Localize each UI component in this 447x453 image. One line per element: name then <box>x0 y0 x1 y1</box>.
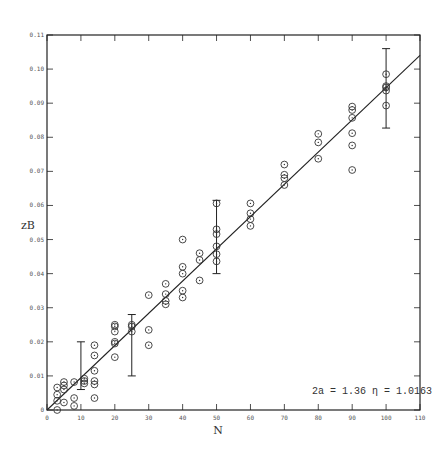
x-axis-title: N <box>213 424 223 437</box>
plot-frame <box>47 35 420 410</box>
y-axis-title: zB <box>21 219 35 232</box>
data-point-center <box>165 304 166 305</box>
data-point-center <box>131 326 132 327</box>
y-tick-label: 0.03 <box>30 304 45 311</box>
data-point-center <box>385 90 386 91</box>
data-point-center <box>250 203 251 204</box>
data-point-center <box>148 294 149 295</box>
data-point-center <box>318 133 319 134</box>
data-point-center <box>351 109 352 110</box>
y-tick-label: 0 <box>40 406 44 413</box>
x-tick-label: 90 <box>349 414 357 421</box>
y-tick-label: 0.05 <box>30 236 45 243</box>
data-point-center <box>114 326 115 327</box>
plot-border <box>47 35 420 410</box>
data-point-center <box>385 74 386 75</box>
y-tick-label: 0.10 <box>30 65 45 72</box>
data-point-center <box>56 409 57 410</box>
fit-line <box>47 55 420 410</box>
data-point-center <box>94 345 95 346</box>
data-point-center <box>114 324 115 325</box>
data-point-center <box>216 261 217 262</box>
y-tick-label: 0.08 <box>30 133 45 140</box>
data-point-center <box>94 370 95 371</box>
scatter-chart: 0102030405060708090100110 00.010.020.030… <box>0 0 447 453</box>
x-tick-label: 50 <box>213 414 221 421</box>
data-point-center <box>199 252 200 253</box>
data-point-center <box>148 329 149 330</box>
regression-line <box>47 55 420 410</box>
data-point-center <box>318 158 319 159</box>
data-point-center <box>216 229 217 230</box>
data-point-center <box>94 384 95 385</box>
x-tick-label: 80 <box>315 414 323 421</box>
y-tick-label: 0.07 <box>30 167 45 174</box>
x-tick-label: 0 <box>45 414 49 421</box>
data-point-center <box>216 203 217 204</box>
x-tick-label: 60 <box>247 414 255 421</box>
y-tick-label: 0.04 <box>30 270 45 277</box>
data-point-center <box>73 405 74 406</box>
data-point-center <box>182 239 183 240</box>
data-point-center <box>250 213 251 214</box>
data-points <box>54 71 390 414</box>
data-point-center <box>216 233 217 234</box>
data-point-center <box>84 380 85 381</box>
data-point-center <box>318 142 319 143</box>
data-point-center <box>56 387 57 388</box>
data-point-center <box>351 145 352 146</box>
x-tick-label: 70 <box>281 414 289 421</box>
data-point-center <box>131 331 132 332</box>
data-point-center <box>165 283 166 284</box>
data-point-center <box>284 177 285 178</box>
data-point-center <box>385 85 386 86</box>
data-point-center <box>114 331 115 332</box>
data-point-center <box>385 105 386 106</box>
x-tick-label: 30 <box>145 414 153 421</box>
data-point-center <box>73 381 74 382</box>
x-axis: 0102030405060708090100110 <box>45 35 426 421</box>
data-point-center <box>351 117 352 118</box>
x-tick-label: 110 <box>415 414 426 421</box>
data-point-center <box>284 184 285 185</box>
data-point-center <box>114 356 115 357</box>
data-point-center <box>56 394 57 395</box>
y-axis: 00.010.020.030.040.050.060.070.080.090.1… <box>30 31 420 413</box>
x-tick-label: 40 <box>179 414 187 421</box>
x-tick-label: 20 <box>111 414 119 421</box>
data-point-center <box>199 259 200 260</box>
data-point-center <box>351 169 352 170</box>
data-point-center <box>182 266 183 267</box>
data-point-center <box>216 246 217 247</box>
y-tick-label: 0.11 <box>30 31 45 38</box>
y-tick-label: 0.09 <box>30 99 45 106</box>
data-point-center <box>250 225 251 226</box>
data-point-center <box>94 355 95 356</box>
x-tick-label: 10 <box>77 414 85 421</box>
x-tick-label: 100 <box>381 414 392 421</box>
data-point-center <box>84 378 85 379</box>
data-point-center <box>165 293 166 294</box>
parameter-annotation: 2a = 1.36 η = 1.0163 <box>312 386 432 397</box>
data-point-center <box>182 273 183 274</box>
data-point-center <box>73 397 74 398</box>
data-point-center <box>63 389 64 390</box>
data-point-center <box>114 341 115 342</box>
y-tick-label: 0.01 <box>30 372 45 379</box>
data-point-center <box>131 324 132 325</box>
data-point-center <box>250 218 251 219</box>
data-point-center <box>63 402 64 403</box>
data-point-center <box>216 254 217 255</box>
error-bars <box>77 49 390 390</box>
data-point-center <box>114 343 115 344</box>
data-point-center <box>182 290 183 291</box>
data-point-center <box>148 345 149 346</box>
y-tick-label: 0.02 <box>30 338 45 345</box>
data-point-center <box>94 397 95 398</box>
data-point-center <box>284 164 285 165</box>
data-point-center <box>84 383 85 384</box>
data-point-center <box>182 297 183 298</box>
data-point-center <box>56 400 57 401</box>
y-tick-label: 0.06 <box>30 201 45 208</box>
data-point-center <box>351 132 352 133</box>
